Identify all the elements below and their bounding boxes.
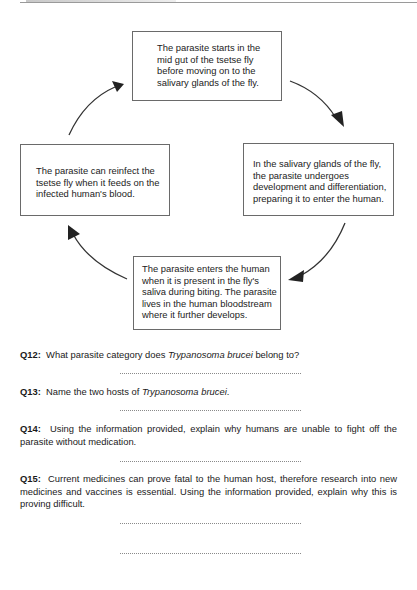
question-text: Name the two hosts of	[46, 386, 142, 397]
answer-line-q15-1[interactable]	[120, 523, 301, 525]
arrow-left-to-top-icon	[69, 81, 124, 135]
question-text: Using the information provided, explain …	[20, 423, 397, 447]
answer-line-q13[interactable]	[120, 410, 301, 412]
answer-line-q15-2[interactable]	[120, 553, 301, 555]
question-text-end: .	[227, 386, 230, 397]
question-text: Current medicines can prove fatal to the…	[20, 473, 397, 509]
question-text-end: belong to?	[253, 349, 299, 360]
species-name: Trypanosoma brucei	[142, 386, 227, 397]
arrow-right-to-bottom-icon	[288, 223, 345, 282]
question-q13: Q13: Name the two hosts of Trypanosoma b…	[20, 386, 397, 399]
cycle-arrows	[0, 0, 417, 340]
question-number: Q14:	[20, 423, 41, 434]
answer-line-q12[interactable]	[120, 373, 301, 375]
question-number: Q15:	[20, 473, 41, 484]
question-q12: Q12: What parasite category does Trypano…	[20, 349, 397, 362]
arrow-bottom-to-left-icon	[68, 225, 127, 279]
question-text: What parasite category does	[46, 349, 168, 360]
species-name: Trypanosoma brucei	[168, 349, 253, 360]
question-number: Q12:	[20, 349, 41, 360]
question-q15: Q15: Current medicines can prove fatal t…	[20, 473, 397, 511]
answer-line-q14[interactable]	[120, 461, 301, 463]
question-q14: Q14: Using the information provided, exp…	[20, 423, 397, 448]
question-number: Q13:	[20, 386, 41, 397]
arrow-top-to-right-icon	[290, 81, 344, 127]
